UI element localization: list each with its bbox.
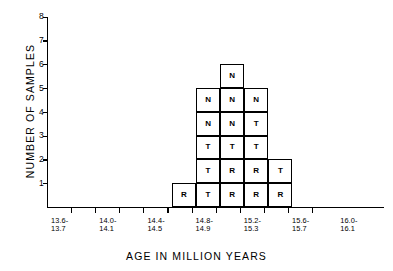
histogram-cell-c4-r1: R (244, 183, 268, 207)
histogram-cell-c4-r4: T (244, 112, 268, 136)
histogram-cell-c2-r1: T (196, 183, 220, 207)
histogram-cell-c2-r2: T (196, 159, 220, 183)
histogram-cell-c2-r4: N (196, 112, 220, 136)
x-axis-title: AGE IN MILLION YEARS (0, 250, 393, 262)
histogram-cell-c2-r3: T (196, 136, 220, 160)
histogram-cell-c3-r3: T (220, 136, 244, 160)
histogram-cell-c3-r1: R (220, 183, 244, 207)
histogram-cell-c3-r2: R (220, 159, 244, 183)
histogram-bars: RTTTNNRRTNNNRRTTNRT (0, 0, 393, 271)
histogram-cell-c4-r5: N (244, 88, 268, 112)
histogram-cell-c3-r6: N (220, 64, 244, 88)
histogram-cell-c2-r5: N (196, 88, 220, 112)
histogram-cell-c3-r4: N (220, 112, 244, 136)
histogram-chart: 87654321 13.6-13.714.0-14.114.4-14.514.8… (0, 0, 393, 271)
histogram-cell-c3-r5: N (220, 88, 244, 112)
histogram-cell-c4-r2: R (244, 159, 268, 183)
y-axis-title: NUMBER OF SAMPLES (24, 11, 36, 211)
histogram-cell-c5-r1: R (268, 183, 292, 207)
histogram-cell-c5-r2: T (268, 159, 292, 183)
histogram-cell-c4-r3: T (244, 136, 268, 160)
histogram-cell-c1-r1: R (172, 183, 196, 207)
